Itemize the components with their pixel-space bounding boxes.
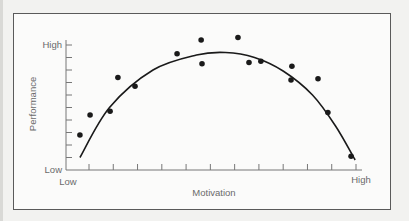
data-point [288,77,294,83]
data-point [289,63,295,69]
x-axis-high-label: High [351,174,371,185]
data-point [315,76,321,82]
data-point [199,61,205,67]
data-point [348,153,354,159]
data-point [87,112,93,118]
chart-canvas: High Low Low High Motivation Performance [0,0,409,221]
data-point [246,60,252,66]
fit-curve [80,52,355,160]
data-point [107,108,113,114]
data-point [174,51,180,57]
data-point [77,132,83,138]
data-point [115,75,121,81]
data-point [198,37,204,43]
data-point [325,110,331,116]
y-axis-low-label: Low [45,164,63,175]
y-axis-high-label: High [42,39,62,50]
y-axis-title: Performance [27,77,38,131]
data-point [132,83,138,89]
x-axis-title: Motivation [192,187,235,198]
data-point [235,35,241,41]
axes [66,40,362,170]
data-point [258,58,264,64]
x-axis-low-label: Low [59,176,77,187]
